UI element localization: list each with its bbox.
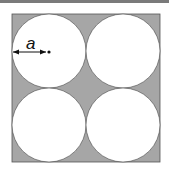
circle-bottom-right xyxy=(86,88,160,162)
center-dot xyxy=(47,50,50,53)
radius-label: a xyxy=(26,34,35,54)
four-circles-in-square-diagram xyxy=(0,0,169,176)
circle-top-right xyxy=(86,14,160,88)
circle-bottom-left xyxy=(12,88,86,162)
